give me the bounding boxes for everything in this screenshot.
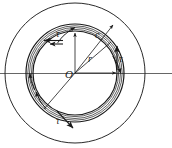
radius-label: r: [88, 53, 92, 64]
radius-line-r: [75, 42, 111, 73]
figure-root: O r c τ τ τ: [0, 0, 172, 148]
tau-label-top-left: τ: [56, 28, 60, 39]
c-label: c: [95, 29, 100, 40]
c-line: [75, 25, 113, 73]
tube-cross-section-diagram: O r c τ τ τ: [0, 0, 172, 148]
tau-label-right: τ: [119, 53, 123, 64]
tau-label-bottom: τ: [56, 115, 60, 126]
center-label: O: [65, 68, 73, 80]
